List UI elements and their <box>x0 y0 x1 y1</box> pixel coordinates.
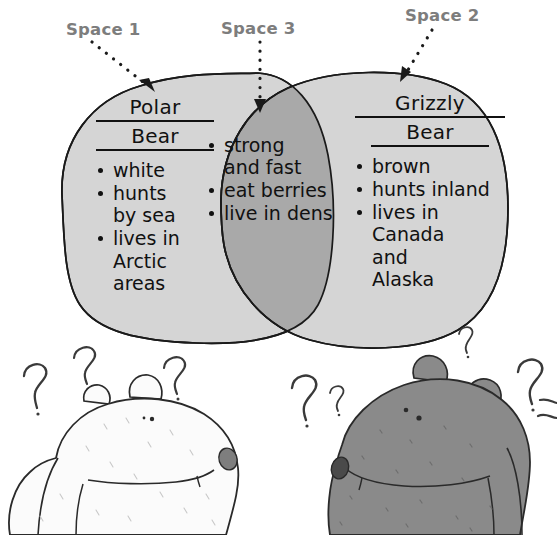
bullet-dot-icon <box>357 210 362 215</box>
list-item-line: by sea <box>113 204 214 226</box>
list-item-line: hunts inland <box>372 178 490 200</box>
list-item-line: hunts <box>113 182 166 204</box>
bullet-dot-icon <box>98 168 103 173</box>
list-item-line: areas <box>113 272 214 294</box>
list-item-line: white <box>113 159 165 181</box>
list-item-line: brown <box>372 155 431 177</box>
question-mark-icon-left-2 <box>74 347 95 384</box>
list-item: white <box>96 159 214 181</box>
list-item: hunts inland <box>355 178 505 200</box>
bullet-dot-icon <box>209 188 214 193</box>
list-item: lives in Arctic areas <box>96 227 214 293</box>
speech-squiggle-icon <box>538 399 557 418</box>
venn-right-heading: Grizzly Bear <box>355 92 505 147</box>
list-item-line: Alaska <box>372 268 505 290</box>
bullet-dot-icon <box>357 187 362 192</box>
grizzly-bear-figure <box>328 356 530 535</box>
list-item-line: lives in <box>372 201 439 223</box>
question-mark-dot <box>338 414 341 417</box>
venn-overlap-list: strong and fast eat berries live in dens <box>207 134 343 224</box>
venn-right-heading-line2: Bear <box>371 121 489 147</box>
list-item-line: lives in <box>113 227 180 249</box>
callout-label-space-1: Space 1 <box>66 20 140 39</box>
callout-arrow-space-1 <box>92 42 155 92</box>
list-item: strong and fast <box>207 134 343 178</box>
bullet-dot-icon <box>357 164 362 169</box>
bullet-dot-icon <box>209 143 214 148</box>
callout-label-space-3: Space 3 <box>221 19 295 38</box>
list-item-line: Canada <box>372 223 505 245</box>
callout-label-space-2: Space 2 <box>405 6 479 25</box>
venn-right-heading-line1: Grizzly <box>355 92 505 118</box>
venn-overlap-content: strong and fast eat berries live in dens <box>207 134 343 225</box>
list-item: live in dens <box>207 202 343 224</box>
list-item-line: strong <box>224 134 284 156</box>
question-mark-dot <box>177 398 180 401</box>
question-mark-dot <box>305 424 308 427</box>
list-item: eat berries <box>207 179 343 201</box>
venn-left-list: white hunts by sea lives in Arctic areas <box>96 159 214 293</box>
list-item-line: and fast <box>224 156 343 178</box>
venn-left-content: Polar Bear white hunts by sea lives in A… <box>96 96 214 295</box>
venn-right-content: Grizzly Bear brown hunts inland lives in… <box>355 92 505 291</box>
list-item-line: and <box>372 246 505 268</box>
question-mark-icon-left-3 <box>164 357 185 394</box>
question-mark-dot <box>531 408 534 411</box>
bullet-dot-icon <box>98 236 103 241</box>
venn-left-heading: Polar Bear <box>96 96 214 151</box>
list-item: lives in Canada and Alaska <box>355 201 505 289</box>
list-item-line: eat berries <box>224 179 327 201</box>
question-mark-icon-left-1 <box>24 364 46 408</box>
bullet-dot-icon <box>98 191 103 196</box>
venn-left-heading-line2: Bear <box>96 125 214 151</box>
list-item: hunts by sea <box>96 182 214 226</box>
question-mark-dot <box>467 356 470 359</box>
venn-right-list: brown hunts inland lives in Canada and A… <box>355 155 505 289</box>
bullet-dot-icon <box>209 211 214 216</box>
list-item-line: Arctic <box>113 250 214 272</box>
question-mark-icon-right-3 <box>459 327 473 353</box>
venn-left-heading-line1: Polar <box>96 96 214 122</box>
worksheet-page: Space 1 Space 3 Space 2 Polar Bear white… <box>0 0 557 535</box>
callout-arrow-space-2 <box>400 30 432 82</box>
question-mark-icon-right-1 <box>292 376 316 420</box>
question-mark-icon-right-4 <box>518 360 542 404</box>
question-mark-dot <box>36 412 39 415</box>
question-mark-icon-right-2 <box>330 386 344 411</box>
list-item: brown <box>355 155 505 177</box>
list-item-line: live in dens <box>224 202 333 224</box>
polar-bear-figure <box>9 375 240 535</box>
